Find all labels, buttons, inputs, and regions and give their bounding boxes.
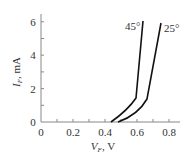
x-tick-label: 0.8 — [162, 126, 176, 138]
x-tick-label: 0.2 — [66, 126, 80, 138]
x-tick-label: 0.4 — [98, 126, 112, 138]
iv-curve-chart: 0 2 4 6 0 0.2 0.4 0.6 0.8 VF, V IF, mA 4… — [0, 0, 187, 157]
y-tick-label: 0 — [30, 116, 36, 128]
y-tick-label: 6 — [30, 16, 36, 28]
y-tick-label: 2 — [30, 83, 36, 95]
x-tick-label: 0.6 — [130, 126, 144, 138]
y-tick-label: 4 — [30, 49, 36, 61]
x-axis-label: VF, V — [91, 140, 115, 154]
y-axis-label: IF, mA — [10, 57, 24, 88]
curve-label-25: 25° — [164, 22, 179, 34]
curve-45deg — [111, 21, 143, 122]
x-tick-label: 0 — [38, 126, 44, 138]
curve-25deg — [118, 23, 161, 122]
curve-label-45: 45° — [125, 20, 140, 32]
